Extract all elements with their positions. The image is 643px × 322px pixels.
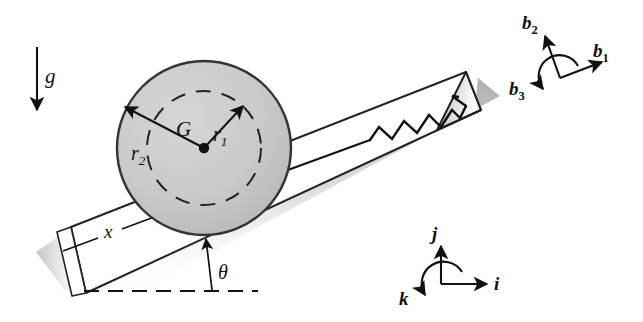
b3-axis-label: b3 [509, 78, 525, 103]
inner-radius-subscript: 1 [221, 134, 228, 149]
k-axis-label: k [399, 288, 409, 309]
b1-subscript: 1 [603, 51, 609, 65]
b2-symbol: b [522, 12, 532, 33]
j-axis-label: j [429, 223, 438, 244]
b2-subscript: 2 [532, 23, 538, 37]
b3-subscript: 3 [519, 89, 525, 103]
b2-axis-label: b2 [522, 12, 538, 37]
center-of-mass-label: G [176, 117, 191, 141]
outer-radius-subscript: 2 [139, 153, 146, 168]
b1-symbol: b [593, 40, 603, 61]
physics-diagram: θ x G r1 r2 g [0, 0, 643, 322]
diagram-canvas: θ x G r1 r2 g [0, 0, 643, 322]
b1-axis-label: b1 [593, 40, 609, 65]
i-axis-label: i [494, 273, 500, 294]
inertial-frame-axes [422, 246, 487, 295]
inner-radius-symbol: r [213, 123, 221, 145]
b1-axis-arrow [560, 62, 602, 78]
displacement-label: x [103, 221, 113, 242]
b3-symbol: b [509, 78, 519, 99]
gravity-label: g [45, 64, 56, 88]
incline-angle-label: θ [218, 261, 228, 283]
outer-radius-symbol: r [131, 142, 139, 164]
